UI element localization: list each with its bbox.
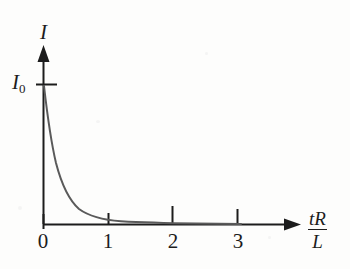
x-axis-label-numerator: tR <box>308 209 327 229</box>
figure-canvas: I I0 0 1 2 3 tR L <box>0 0 350 269</box>
decay-curve <box>44 86 241 224</box>
y-axis-arrowhead <box>38 45 50 62</box>
x-axis-arrowhead <box>284 219 301 231</box>
x-tick-label-0: 0 <box>31 231 55 252</box>
y-tick-label-base: I <box>12 70 19 94</box>
x-tick-label-2: 2 <box>161 231 185 252</box>
x-tick-label-3: 3 <box>226 231 250 252</box>
y-tick-label-i0: I0 <box>12 72 26 95</box>
x-tick-label-1: 1 <box>96 231 120 252</box>
y-axis-label: I <box>40 22 47 43</box>
x-axis-label-denominator: L <box>308 230 327 251</box>
y-tick-label-subscript: 0 <box>19 81 26 96</box>
x-axis-label: tR L <box>308 209 327 251</box>
